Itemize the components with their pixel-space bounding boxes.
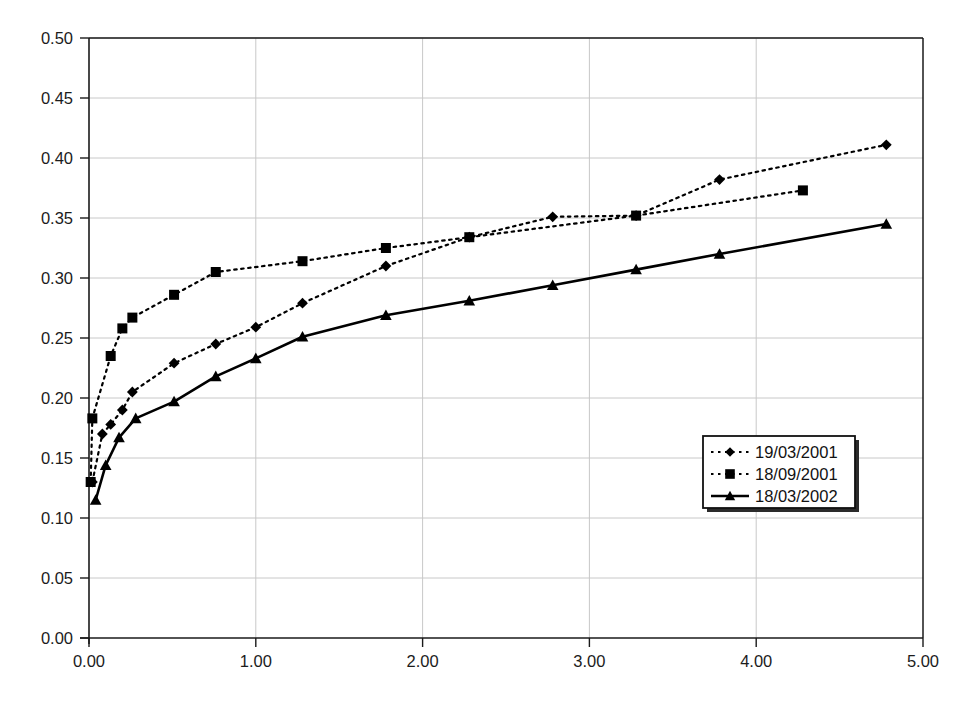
y-axis-tick-label: 0.15 xyxy=(41,449,73,467)
data-point-square xyxy=(169,290,179,300)
data-point-square xyxy=(87,413,97,423)
data-point-square xyxy=(725,469,735,479)
y-axis-tick-label: 0.05 xyxy=(41,569,73,587)
data-point-square xyxy=(211,267,221,277)
y-axis-tick-label: 0.40 xyxy=(41,149,73,167)
x-axis-tick-label: 4.00 xyxy=(740,652,772,670)
x-axis-tick-label: 3.00 xyxy=(573,652,605,670)
y-axis-tick-label: 0.30 xyxy=(41,269,73,287)
data-point-square xyxy=(106,351,116,361)
chart-figure: 0.000.050.100.150.200.250.300.350.400.45… xyxy=(0,0,964,703)
y-axis-tick-label: 0.50 xyxy=(41,29,73,47)
legend-label: 18/03/2002 xyxy=(755,487,838,505)
data-point-square xyxy=(631,211,641,221)
x-axis-tick-label: 2.00 xyxy=(407,652,439,670)
data-point-square xyxy=(127,313,137,323)
x-axis-tick-label: 0.00 xyxy=(73,652,105,670)
y-axis-tick-label: 0.10 xyxy=(41,509,73,527)
data-point-square xyxy=(298,256,308,266)
y-axis-tick-label: 0.25 xyxy=(41,329,73,347)
x-axis-tick-label: 5.00 xyxy=(907,652,939,670)
y-axis-tick-label: 0.35 xyxy=(41,209,73,227)
data-point-square xyxy=(798,185,808,195)
legend-label: 18/09/2001 xyxy=(755,465,838,483)
data-point-square xyxy=(464,232,474,242)
y-axis-tick-label: 0.20 xyxy=(41,389,73,407)
x-axis-tick-label: 1.00 xyxy=(240,652,272,670)
y-axis-tick-label: 0.45 xyxy=(41,89,73,107)
legend: 19/03/200118/09/200118/03/2002 xyxy=(703,436,859,512)
data-point-square xyxy=(86,477,96,487)
data-point-square xyxy=(381,243,391,253)
y-axis-tick-label: 0.00 xyxy=(41,629,73,647)
line-chart: 0.000.050.100.150.200.250.300.350.400.45… xyxy=(0,0,964,703)
legend-label: 19/03/2001 xyxy=(755,443,838,461)
data-point-square xyxy=(117,323,127,333)
